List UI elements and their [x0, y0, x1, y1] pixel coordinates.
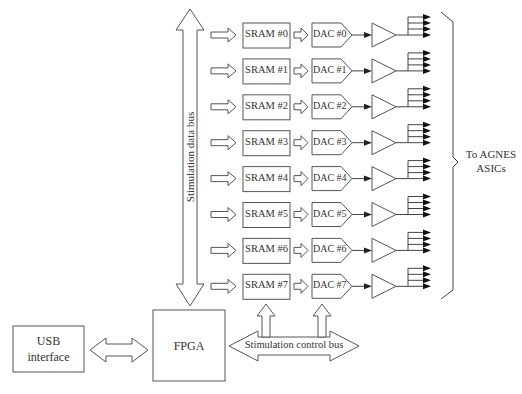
data-bus-label: Stimulation data bus: [183, 97, 197, 217]
arrowhead-icon: [364, 283, 372, 289]
bus-to-sram-arrow: [211, 136, 236, 150]
arrowhead-icon: [364, 68, 372, 74]
amplifier-triangle: [372, 167, 396, 191]
arrowhead-icon: [364, 32, 372, 38]
bus-to-sram-arrow: [211, 172, 236, 186]
sram-to-dac-arrow: [294, 208, 308, 222]
control-bus-label: Stimulation control bus: [238, 339, 350, 350]
usb-interface-label: USB interface: [13, 333, 84, 365]
fpga-label: FPGA: [153, 338, 225, 354]
output-arrowhead-icon: [423, 68, 431, 74]
output-arrowhead-icon: [423, 128, 431, 134]
amplifier-triangle: [372, 274, 396, 298]
output-brace: [441, 12, 458, 299]
output-arrowhead-icon: [423, 86, 431, 92]
amplifier-triangle: [372, 59, 396, 83]
bus-to-sram-arrow: [211, 28, 236, 42]
arrowhead-icon: [364, 140, 372, 146]
output-arrowhead-icon: [423, 14, 431, 20]
output-arrowhead-icon: [423, 20, 431, 26]
dac-label: DAC #0: [312, 28, 353, 39]
sram-to-dac-arrow: [294, 28, 308, 42]
amplifier-triangle: [372, 131, 396, 155]
output-arrowhead-icon: [423, 62, 431, 68]
sram-to-dac-arrow: [294, 243, 308, 257]
arrowhead-icon: [364, 104, 372, 110]
amplifier-triangle: [372, 203, 396, 227]
dac-label: DAC #3: [312, 136, 353, 147]
output-arrowhead-icon: [423, 212, 431, 218]
amplifier-triangle: [372, 95, 396, 119]
dac-label: DAC #1: [312, 64, 353, 75]
sram-label: SRAM #5: [243, 208, 290, 219]
output-arrowhead-icon: [423, 170, 431, 176]
output-arrowhead-icon: [423, 277, 431, 283]
dac-label: DAC #2: [312, 100, 353, 111]
dac-label: DAC #7: [312, 279, 353, 290]
output-arrowhead-icon: [423, 206, 431, 212]
sram-label: SRAM #6: [243, 243, 290, 254]
output-arrowhead-icon: [423, 247, 431, 253]
output-arrowhead-icon: [423, 194, 431, 200]
arrowhead-icon: [364, 247, 372, 253]
output-arrowhead-icon: [423, 134, 431, 140]
output-arrowhead-icon: [423, 235, 431, 241]
sram-to-dac-arrow: [294, 136, 308, 150]
bus-to-sram-arrow: [211, 64, 236, 78]
sram-label: SRAM #4: [243, 172, 290, 183]
control-to-sram-arrow: [257, 304, 275, 337]
output-arrowhead-icon: [423, 164, 431, 170]
bus-to-sram-arrow: [211, 208, 236, 222]
output-arrowhead-icon: [423, 32, 431, 38]
output-arrowhead-icon: [423, 241, 431, 247]
sram-to-dac-arrow: [294, 64, 308, 78]
sram-label: SRAM #3: [243, 136, 290, 147]
output-arrowhead-icon: [423, 92, 431, 98]
dac-label: DAC #5: [312, 208, 353, 219]
sram-to-dac-arrow: [294, 279, 308, 293]
sram-to-dac-arrow: [294, 100, 308, 114]
output-arrowhead-icon: [423, 122, 431, 128]
output-arrowhead-icon: [423, 140, 431, 146]
output-label: To AGNES ASICs: [462, 147, 520, 175]
arrowhead-icon: [364, 212, 372, 218]
output-arrowhead-icon: [423, 50, 431, 56]
sram-label: SRAM #0: [243, 28, 290, 39]
output-arrowhead-icon: [423, 176, 431, 182]
amplifier-triangle: [372, 23, 396, 47]
amplifier-triangle: [372, 238, 396, 262]
output-arrowhead-icon: [423, 56, 431, 62]
bus-to-sram-arrow: [211, 279, 236, 293]
output-arrowhead-icon: [423, 158, 431, 164]
dac-label: DAC #6: [312, 243, 353, 254]
sram-label: SRAM #2: [243, 100, 290, 111]
output-arrowhead-icon: [423, 98, 431, 104]
output-arrowhead-icon: [423, 26, 431, 32]
output-arrowhead-icon: [423, 200, 431, 206]
bus-to-sram-arrow: [211, 243, 236, 257]
output-arrowhead-icon: [423, 283, 431, 289]
sram-label: SRAM #1: [243, 64, 290, 75]
bus-to-sram-arrow: [211, 100, 236, 114]
sram-to-dac-arrow: [294, 172, 308, 186]
usb-fpga-arrow: [90, 338, 148, 362]
dac-label: DAC #4: [312, 172, 353, 183]
control-to-dac-arrow: [313, 304, 331, 337]
arrowhead-icon: [364, 176, 372, 182]
output-arrowhead-icon: [423, 104, 431, 110]
sram-label: SRAM #7: [243, 279, 290, 290]
output-arrowhead-icon: [423, 271, 431, 277]
output-arrowhead-icon: [423, 265, 431, 271]
output-arrowhead-icon: [423, 229, 431, 235]
